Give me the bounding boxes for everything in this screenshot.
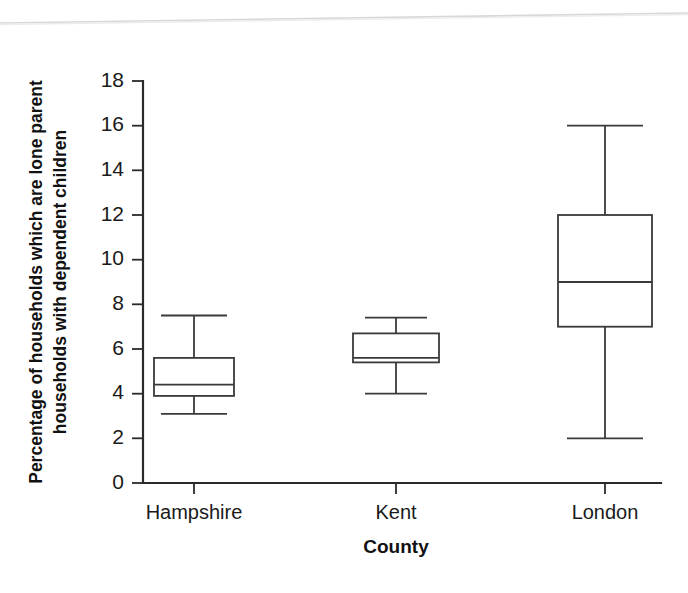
y-tick-label-0: 0	[112, 470, 124, 493]
box-plot-london	[558, 126, 652, 439]
y-tick-label-8: 8	[112, 291, 124, 314]
x-tick-label-london: London	[572, 501, 639, 523]
y-tick-label-2: 2	[112, 425, 124, 448]
x-tick-label-hampshire: Hampshire	[146, 501, 243, 523]
y-tick-label-12: 12	[101, 202, 124, 225]
box-plot-hampshire	[154, 316, 234, 414]
box-plot-kent	[353, 318, 439, 394]
y-tick-label-6: 6	[112, 336, 124, 359]
x-axis-tick-labels: Hampshire Kent London	[146, 501, 639, 523]
y-axis-ticks	[132, 81, 143, 483]
box-hampshire	[154, 358, 234, 396]
x-axis-ticks	[194, 483, 605, 494]
y-tick-label-18: 18	[101, 68, 124, 91]
x-tick-label-kent: Kent	[375, 501, 417, 523]
y-axis-tick-labels: 0 2 4 6 8 10 12 14 16 18	[101, 68, 125, 493]
y-tick-label-16: 16	[101, 112, 124, 135]
x-axis-title: County	[363, 536, 429, 557]
box-plot-figure: 0 2 4 6 8 10 12 14 16 18 Hampshire Kent …	[0, 0, 688, 593]
y-tick-label-10: 10	[101, 246, 124, 269]
y-tick-label-14: 14	[101, 157, 125, 180]
y-tick-label-4: 4	[112, 380, 124, 403]
y-axis-title-line1: Percentage of households which are lone …	[26, 80, 46, 484]
box-london	[558, 215, 652, 327]
y-axis-title: Percentage of households which are lone …	[26, 80, 70, 484]
y-axis-title-line2: households with dependent children	[50, 130, 70, 434]
